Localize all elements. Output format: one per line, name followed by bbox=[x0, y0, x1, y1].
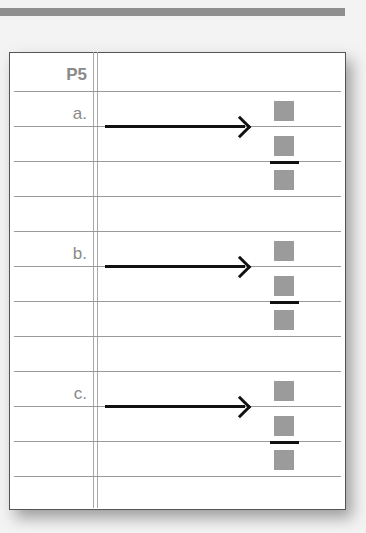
answer-box-denominator[interactable] bbox=[274, 450, 294, 470]
answer-box-whole[interactable] bbox=[274, 241, 294, 261]
answer-box-numerator[interactable] bbox=[274, 136, 294, 156]
arrow-icon bbox=[105, 265, 245, 268]
rule-line bbox=[14, 231, 341, 232]
header-bar bbox=[0, 8, 345, 16]
rule-line bbox=[14, 336, 341, 337]
problem-label: a. bbox=[47, 105, 87, 123]
rule-line bbox=[14, 476, 341, 477]
answer-box-numerator[interactable] bbox=[274, 416, 294, 436]
answer-box-whole[interactable] bbox=[274, 381, 294, 401]
problem-label: c. bbox=[47, 385, 87, 403]
answer-box-denominator[interactable] bbox=[274, 310, 294, 330]
arrow-icon bbox=[105, 125, 245, 128]
margin-line-left bbox=[93, 52, 94, 508]
rule-line bbox=[14, 371, 341, 372]
fraction-bar bbox=[270, 301, 299, 304]
rule-line bbox=[14, 91, 341, 92]
answer-box-whole[interactable] bbox=[274, 101, 294, 121]
page-title: P5 bbox=[47, 66, 87, 84]
fraction-bar bbox=[270, 161, 299, 164]
fraction-bar bbox=[270, 441, 299, 444]
margin-line-right bbox=[97, 52, 98, 508]
arrow-icon bbox=[105, 405, 245, 408]
problem-label: b. bbox=[47, 245, 87, 263]
answer-box-denominator[interactable] bbox=[274, 170, 294, 190]
rule-line bbox=[14, 196, 341, 197]
answer-box-numerator[interactable] bbox=[274, 276, 294, 296]
